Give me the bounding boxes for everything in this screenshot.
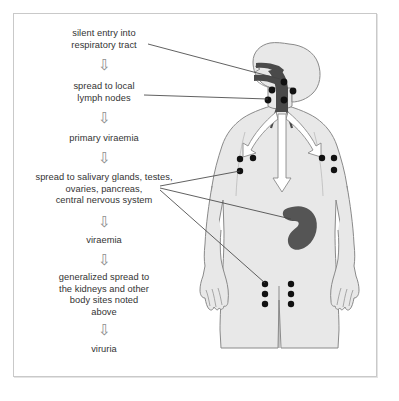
diagram-canvas: silent entry intorespiratory tract ⇩ spr… (0, 0, 399, 401)
flow-step-2: spread to locallymph nodes (16, 81, 192, 104)
flow-step-6: generalized spread tothe kidneys and oth… (16, 272, 192, 318)
flow-connector-5: ⇩ (16, 252, 192, 267)
flow-connector-3: ⇩ (16, 150, 192, 165)
flow-step-1: silent entry intorespiratory tract (16, 28, 192, 51)
flow-step-3: primary viraemia (16, 133, 192, 145)
flow-step-7: viruria (16, 344, 192, 356)
flow-step-4: spread to salivary glands, testes,ovarie… (11, 172, 197, 207)
flow-connector-6: ⇩ (16, 322, 192, 337)
flow-connector-2: ⇩ (16, 110, 192, 125)
flow-connector-4: ⇩ (16, 214, 192, 229)
flow-step-5: viraemia (16, 235, 192, 247)
flow-connector-1: ⇩ (16, 57, 192, 72)
